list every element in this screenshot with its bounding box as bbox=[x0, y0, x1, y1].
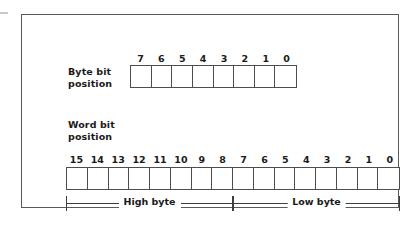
high-byte-label: High byte bbox=[118, 195, 180, 208]
word-bit-position-label: Word bit position bbox=[68, 119, 130, 142]
word-cell-strip bbox=[66, 167, 400, 190]
byte-bit-number-strip: 7 6 5 4 3 2 1 0 bbox=[130, 51, 297, 64]
high-byte-bracket: High byte bbox=[66, 196, 233, 212]
word-cell bbox=[67, 168, 88, 189]
byte-bit-number: 5 bbox=[172, 53, 193, 64]
byte-cell bbox=[131, 66, 152, 87]
byte-bit-position-label: Byte bit position bbox=[68, 66, 130, 89]
byte-bit-number: 1 bbox=[255, 53, 276, 64]
byte-bit-number: 0 bbox=[276, 53, 297, 64]
byte-cell bbox=[275, 66, 296, 87]
figure-frame: Byte bit position 7 6 5 4 3 2 1 0 Word b… bbox=[21, 14, 399, 208]
bracket-end-tick bbox=[233, 196, 234, 211]
byte-bit-number: 7 bbox=[130, 53, 151, 64]
byte-split-bracket-band: High byte Low byte bbox=[66, 196, 400, 212]
word-cell bbox=[150, 168, 171, 189]
word-bit-number: 0 bbox=[379, 154, 400, 165]
page-registration-tick bbox=[0, 12, 8, 14]
word-cell bbox=[171, 168, 192, 189]
word-cell bbox=[88, 168, 109, 189]
word-bit-number-strip: 15 14 13 12 11 10 9 8 7 6 5 4 3 2 1 0 bbox=[66, 152, 400, 165]
byte-cell bbox=[234, 66, 255, 87]
word-bit-number: 11 bbox=[150, 154, 171, 165]
byte-cell bbox=[193, 66, 214, 87]
word-bit-number: 4 bbox=[296, 154, 317, 165]
bracket-end-tick bbox=[399, 196, 400, 211]
word-bit-number: 9 bbox=[191, 154, 212, 165]
word-bit-number: 12 bbox=[129, 154, 150, 165]
word-cell bbox=[337, 168, 358, 189]
byte-cell bbox=[214, 66, 235, 87]
word-cell bbox=[316, 168, 337, 189]
word-cell bbox=[109, 168, 130, 189]
word-cell bbox=[233, 168, 254, 189]
word-bit-number: 14 bbox=[87, 154, 108, 165]
byte-bit-number: 6 bbox=[151, 53, 172, 64]
word-bit-number: 8 bbox=[212, 154, 233, 165]
word-bit-number: 10 bbox=[170, 154, 191, 165]
word-cell bbox=[212, 168, 233, 189]
word-bit-number: 3 bbox=[317, 154, 338, 165]
word-cell bbox=[275, 168, 296, 189]
word-bit-number: 2 bbox=[338, 154, 359, 165]
word-cell bbox=[254, 168, 275, 189]
byte-cell bbox=[172, 66, 193, 87]
word-cell bbox=[192, 168, 213, 189]
byte-bit-number: 4 bbox=[193, 53, 214, 64]
word-cell bbox=[129, 168, 150, 189]
word-bit-number: 6 bbox=[254, 154, 275, 165]
word-bit-number: 15 bbox=[66, 154, 87, 165]
word-bit-number: 13 bbox=[108, 154, 129, 165]
word-bit-number: 1 bbox=[358, 154, 379, 165]
low-byte-label: Low byte bbox=[287, 195, 346, 208]
byte-cell-strip bbox=[130, 65, 297, 88]
byte-bit-number: 2 bbox=[234, 53, 255, 64]
byte-cell bbox=[255, 66, 276, 87]
word-cell bbox=[378, 168, 399, 189]
byte-cell bbox=[152, 66, 173, 87]
low-byte-bracket: Low byte bbox=[233, 196, 400, 212]
word-bit-number: 7 bbox=[233, 154, 254, 165]
word-bit-number: 5 bbox=[275, 154, 296, 165]
word-cell bbox=[358, 168, 379, 189]
byte-bit-number: 3 bbox=[214, 53, 235, 64]
bracket-end-tick bbox=[66, 196, 67, 211]
word-cell bbox=[295, 168, 316, 189]
